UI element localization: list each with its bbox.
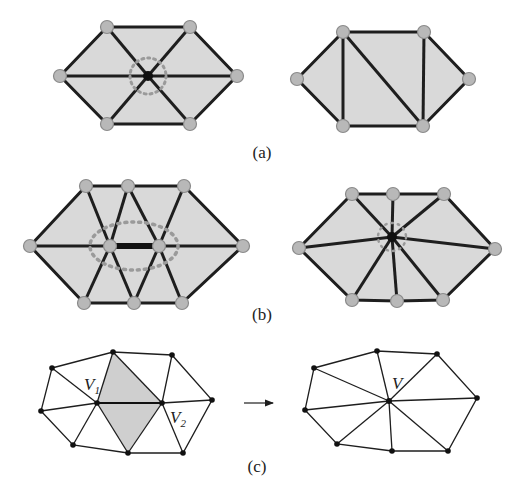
panel-b-left-edge-collapse-before (24, 180, 250, 310)
caption-c: (c) (248, 457, 267, 477)
panel-a-left-vertex-removal-before (54, 21, 244, 131)
label-V2: V2 (170, 408, 186, 429)
label-V: V (392, 374, 405, 393)
mesh-simplification-diagram: V1 V2 V (0, 0, 516, 497)
label-V1: V1 (84, 375, 100, 396)
caption-a: (a) (253, 143, 272, 163)
panel-c-left-edge-V1-V2: V1 V2 (38, 349, 215, 456)
panel-c-right-vertex-V: V (302, 348, 480, 454)
merged-vertex (387, 232, 397, 242)
caption-b: (b) (252, 305, 272, 325)
panel-a-right-vertex-removal-after (291, 26, 476, 133)
panel-b-right-edge-collapse-after (293, 188, 502, 308)
center-vertex (143, 71, 153, 81)
